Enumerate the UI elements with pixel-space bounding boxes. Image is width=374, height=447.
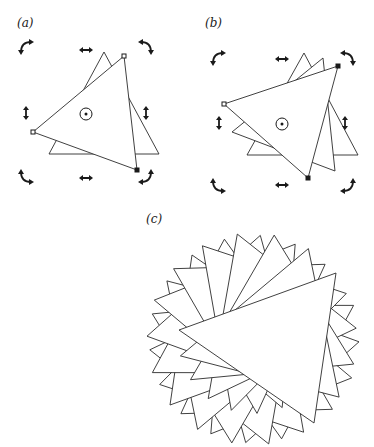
rotate-arrow-icon[interactable] — [138, 169, 154, 185]
vertical-double-arrow-icon[interactable] — [216, 116, 222, 130]
rotate-arrow-icon[interactable] — [18, 39, 34, 55]
vertex-handle[interactable] — [306, 176, 310, 180]
vertical-double-arrow-icon[interactable] — [23, 106, 29, 120]
vertex-handle[interactable] — [31, 130, 35, 134]
horizontal-double-arrow-icon[interactable] — [79, 175, 93, 181]
panel-b-triangles — [224, 53, 358, 178]
vertex-handle[interactable] — [222, 102, 226, 106]
panel-b-label: (b) — [205, 16, 222, 30]
rotate-arrow-icon[interactable] — [18, 169, 34, 185]
horizontal-double-arrow-icon[interactable] — [79, 47, 93, 53]
figure-canvas: (a) (b) (c) — [0, 0, 374, 447]
horizontal-double-arrow-icon[interactable] — [275, 182, 289, 188]
rotate-arrow-icon[interactable] — [340, 50, 356, 66]
vertex-handle[interactable] — [135, 168, 139, 172]
panel-c: (c) — [146, 212, 359, 444]
panel-c-triangles — [147, 234, 359, 444]
horizontal-double-arrow-icon[interactable] — [275, 56, 289, 62]
panel-b: (b) — [205, 16, 358, 194]
panel-a-label: (a) — [17, 16, 34, 30]
vertex-handle[interactable] — [122, 54, 126, 58]
vertical-double-arrow-icon[interactable] — [143, 106, 149, 120]
rotate-arrow-icon[interactable] — [138, 39, 154, 55]
panel-a: (a) — [17, 16, 159, 185]
panel-c-label: (c) — [146, 212, 162, 226]
rotate-arrow-icon[interactable] — [340, 178, 356, 194]
rotate-arrow-icon[interactable] — [210, 178, 226, 194]
vertex-handle[interactable] — [336, 64, 340, 68]
rotate-arrow-icon[interactable] — [210, 50, 226, 66]
panel-a-triangles — [33, 52, 159, 170]
